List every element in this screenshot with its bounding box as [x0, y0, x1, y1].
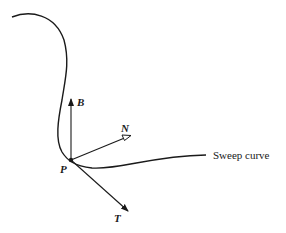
point-p-dot [69, 158, 73, 162]
label-point-p: P [60, 164, 67, 175]
sweep-curve [12, 14, 206, 168]
sweep-curve-diagram [0, 0, 286, 233]
sweep-curve-caption: Sweep curve [213, 150, 270, 161]
normal-arrowhead-icon [122, 135, 131, 141]
normal-vector [71, 137, 127, 160]
label-binormal-b: B [77, 97, 84, 108]
label-tangent-t: T [114, 213, 121, 224]
label-normal-n: N [121, 123, 129, 134]
